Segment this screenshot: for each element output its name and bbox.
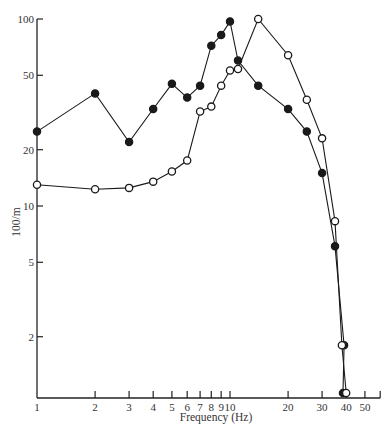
filled-data-point (33, 128, 40, 135)
x-tick-label: 20 (283, 401, 295, 413)
y-tick-label: 20 (23, 144, 35, 156)
filled-data-point (125, 138, 132, 145)
filled-data-point (255, 82, 262, 89)
open-data-point (218, 82, 225, 89)
x-tick-label: 40 (341, 401, 353, 413)
filled-data-point (150, 105, 157, 112)
x-tick-label: 3 (126, 401, 132, 413)
open-data-point (208, 103, 215, 110)
filled-data-point (208, 42, 215, 49)
filled-data-point (284, 105, 291, 112)
y-tick-label: 10 (23, 200, 35, 212)
x-tick-label: 4 (150, 401, 156, 413)
x-axis-title: Frequency (Hz) (180, 411, 253, 424)
open-data-point (343, 389, 350, 396)
open-data-point (331, 218, 338, 225)
filled-data-point (218, 32, 225, 39)
filled-data-point (91, 90, 98, 97)
open-data-point (197, 108, 204, 115)
y-tick-label: 100 (18, 13, 35, 25)
x-tick-label: 30 (317, 401, 329, 413)
open-data-point (168, 168, 175, 175)
open-data-point (33, 181, 40, 188)
filled-data-point (168, 80, 175, 87)
series-open (33, 15, 349, 396)
x-tick-label: 2 (92, 401, 98, 413)
series-line (37, 21, 344, 393)
x-tick-label: 5 (169, 401, 175, 413)
open-data-point (338, 342, 345, 349)
filled-data-point (331, 243, 338, 250)
open-data-point (226, 67, 233, 74)
open-data-point (234, 65, 241, 72)
y-tick-label: 50 (23, 69, 35, 81)
chart: 251020501001234567891020304050 Frequency… (0, 0, 389, 429)
y-axis-title: 100/m (10, 207, 22, 236)
open-data-point (318, 135, 325, 142)
y-tick-label: 2 (29, 331, 35, 343)
open-data-point (184, 157, 191, 164)
open-data-point (303, 96, 310, 103)
filled-data-point (303, 128, 310, 135)
x-tick-label: 50 (359, 401, 371, 413)
y-tick-label: 5 (29, 256, 35, 268)
filled-data-point (197, 82, 204, 89)
filled-data-point (318, 169, 325, 176)
open-data-point (150, 178, 157, 185)
filled-data-point (226, 18, 233, 25)
filled-data-point (184, 94, 191, 101)
open-data-point (91, 186, 98, 193)
series-line (37, 19, 346, 393)
open-data-point (255, 15, 262, 22)
x-tick-label: 1 (34, 401, 40, 413)
series-layer (33, 15, 349, 396)
series-filled (33, 18, 347, 397)
open-data-point (284, 52, 291, 59)
open-data-point (125, 184, 132, 191)
axes: 251020501001234567891020304050 (18, 13, 381, 413)
